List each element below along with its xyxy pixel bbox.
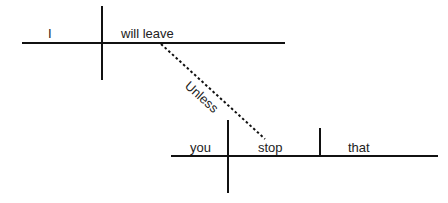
sub-object: that <box>348 140 370 155</box>
main-predicate: will leave <box>121 26 174 41</box>
connector-line <box>161 44 265 139</box>
diagram-lines <box>0 0 448 203</box>
sub-subject: you <box>190 140 211 155</box>
sub-predicate: stop <box>258 140 283 155</box>
main-subject: I <box>48 26 52 41</box>
